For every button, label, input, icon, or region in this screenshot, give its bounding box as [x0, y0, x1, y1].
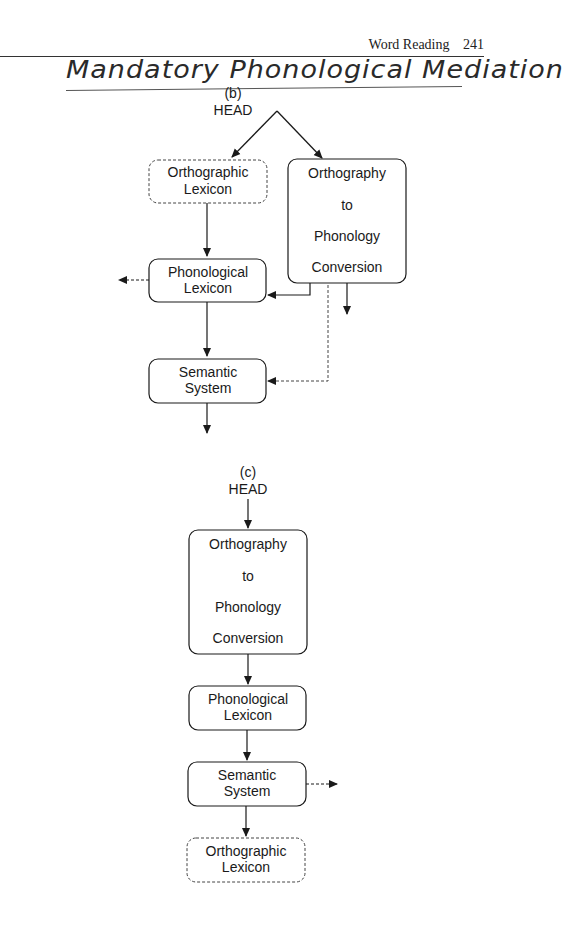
arrow-opc-to-phon-lex — [268, 283, 310, 295]
node-c-opc: Orthography to Phonology Conversion — [189, 530, 307, 654]
node-label-line: Lexicon — [184, 280, 232, 296]
node-label-line: System — [185, 380, 232, 396]
node-label-line: Semantic — [179, 364, 237, 380]
diagram-b-label: (b) — [224, 85, 241, 101]
diagram-c-label: (c) — [240, 464, 256, 480]
node-label-line: Orthography — [308, 165, 386, 181]
node-b-opc: Orthography to Phonology Conversion — [288, 159, 406, 283]
node-label-line: Lexicon — [184, 181, 232, 197]
node-label-line: Orthographic — [206, 843, 287, 859]
node-label-line: Phonology — [215, 599, 281, 615]
node-b-orthographic-lexicon: Orthographic Lexicon — [149, 160, 267, 203]
node-label-line: Semantic — [218, 767, 276, 783]
node-b-semantic-system: Semantic System — [149, 359, 266, 403]
diagram-canvas: (b) HEAD Orthographic Lexicon Orthograph… — [0, 0, 568, 936]
node-c-orthographic-lexicon: Orthographic Lexicon — [187, 838, 305, 882]
node-label-line: Conversion — [312, 259, 383, 275]
node-label-line: to — [341, 197, 353, 213]
node-c-phonological-lexicon: Phonological Lexicon — [189, 686, 306, 730]
diagram-b-head: HEAD — [214, 102, 253, 118]
diagram-c: (c) HEAD Orthography to Phonology Conver… — [187, 464, 337, 882]
diagram-b: (b) HEAD Orthographic Lexicon Orthograph… — [119, 85, 406, 433]
arrow-head-to-opc — [277, 111, 322, 158]
node-label-line: System — [224, 783, 271, 799]
node-label-line: Orthographic — [168, 164, 249, 180]
node-label-line: Lexicon — [224, 707, 272, 723]
node-label-line: Lexicon — [222, 859, 270, 875]
node-c-semantic-system: Semantic System — [188, 762, 306, 806]
node-label-line: Conversion — [213, 630, 284, 646]
node-label-line: Phonological — [168, 264, 248, 280]
node-b-phonological-lexicon: Phonological Lexicon — [149, 259, 266, 302]
node-label-line: Phonological — [208, 691, 288, 707]
node-label-line: to — [242, 568, 254, 584]
diagram-c-head: HEAD — [229, 481, 268, 497]
node-label-line: Phonology — [314, 228, 380, 244]
node-label-line: Orthography — [209, 536, 287, 552]
arrow-opc-to-semantic-dashed — [268, 285, 328, 381]
